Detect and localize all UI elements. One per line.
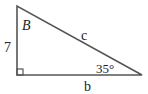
angle-35-label: 35°: [96, 61, 114, 76]
side-bottom-label: b: [84, 79, 91, 94]
side-left-label: 7: [4, 40, 11, 55]
angle-b-label: B: [22, 18, 31, 33]
triangle-outline: [17, 6, 142, 75]
right-triangle-diagram: B 7 c 35° b: [0, 0, 148, 94]
hypotenuse-label: c: [81, 28, 87, 43]
right-angle-marker: [17, 69, 23, 75]
